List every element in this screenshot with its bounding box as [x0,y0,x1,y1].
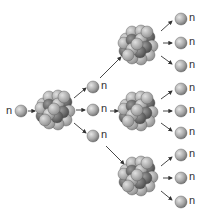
nucleus-gen1-bot [118,156,158,196]
neutron-label: n [101,80,107,91]
neutron-label: n [101,129,107,140]
neutron-label: n [101,103,107,114]
neutron [87,130,99,142]
neutron [175,196,187,208]
neutron [175,149,187,161]
neutron-label: n [189,82,195,93]
neutron [175,172,187,184]
neutron [175,83,187,95]
neutron [87,104,99,116]
neutron [175,13,187,25]
neutron [87,81,99,93]
neutron-label: n [189,171,195,182]
fission-chain-diagram: nnnnnnnnnnnnn [0,0,211,219]
neutron-label: n [189,104,195,115]
neutron-label: n [189,36,195,47]
neutron [175,60,187,72]
neutron-label: n [189,148,195,159]
neutron-label: n [189,126,195,137]
neutron-label: n [189,59,195,70]
neutron-label: n [6,105,12,116]
neutron-initial [15,105,27,117]
neutron [175,105,187,117]
nucleus-gen1-mid [118,91,158,131]
neutron [175,127,187,139]
neutron-label: n [189,195,195,206]
nucleus-gen1-top [118,25,158,65]
neutron-label: n [189,12,195,23]
nucleus-gen0 [35,90,75,130]
neutron [175,37,187,49]
